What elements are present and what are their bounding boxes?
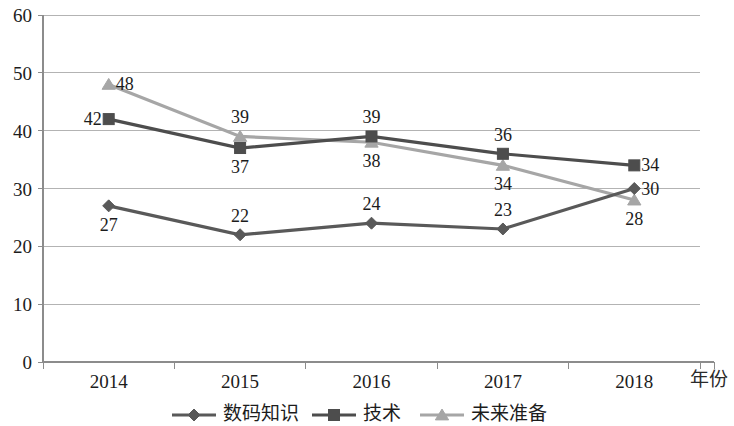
x-axis-title: 年份 (690, 369, 728, 390)
x-tick-label: 2015 (221, 371, 259, 392)
data-label: 22 (231, 206, 249, 226)
y-tick-label: 10 (13, 294, 32, 315)
data-label: 23 (494, 200, 512, 220)
data-label: 28 (625, 209, 643, 229)
x-tick-label: 2018 (615, 371, 653, 392)
x-tick-label: 2016 (353, 371, 391, 392)
data-label: 30 (641, 179, 659, 199)
x-tick-label: 2017 (484, 371, 522, 392)
y-tick-label: 30 (13, 179, 32, 200)
data-label: 34 (641, 155, 659, 175)
legend-label: 未来准备 (471, 403, 547, 424)
y-tick-label: 40 (13, 121, 32, 142)
data-label: 39 (231, 107, 249, 127)
data-label: 37 (231, 157, 249, 177)
marker-square (629, 160, 640, 171)
data-label: 39 (363, 107, 381, 127)
data-label: 34 (494, 174, 512, 194)
y-tick-label: 20 (13, 236, 32, 257)
x-tick-label: 2014 (90, 371, 129, 392)
data-label: 38 (363, 151, 381, 171)
marker-square (497, 148, 508, 159)
data-label: 27 (100, 215, 118, 235)
legend-label: 技术 (363, 403, 401, 424)
line-chart: 0102030405060 20142015201620172018 27222… (0, 0, 734, 426)
y-tick-label: 0 (23, 352, 33, 373)
marker-square (103, 114, 114, 125)
chart-canvas: 0102030405060 20142015201620172018 27222… (0, 0, 734, 426)
y-tick-label: 50 (13, 63, 32, 84)
marker-square (235, 143, 246, 154)
legend-label: 数码知识 (223, 403, 299, 424)
y-tick-label: 60 (13, 5, 32, 26)
data-label: 42 (84, 109, 102, 129)
data-label: 24 (363, 194, 381, 214)
marker-square (329, 410, 340, 421)
marker-square (366, 131, 377, 142)
data-label: 48 (116, 74, 134, 94)
data-label: 36 (494, 125, 512, 145)
